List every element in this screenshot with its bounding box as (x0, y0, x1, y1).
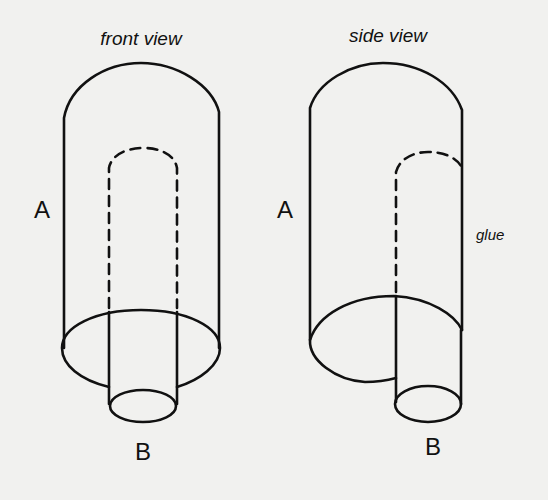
side-inner-hidden (396, 152, 461, 292)
side-label-a: A (277, 196, 293, 224)
side-view-title: side view (349, 25, 427, 47)
side-outer-base (310, 296, 462, 382)
side-inner-opening (395, 386, 461, 422)
front-inner-opening (110, 390, 176, 422)
front-inner-hidden (109, 148, 177, 308)
front-view-title: front view (100, 28, 181, 50)
front-outer-tube (64, 63, 219, 348)
glue-annotation: glue (476, 226, 504, 243)
side-view-drawing (310, 63, 462, 422)
front-outer-base-ellipse (62, 310, 220, 387)
diagram-canvas (0, 0, 548, 500)
side-label-b: B (425, 433, 441, 461)
front-view-drawing (62, 63, 220, 422)
side-outer-tube (310, 63, 462, 340)
front-label-b: B (135, 438, 151, 466)
front-label-a: A (34, 196, 50, 224)
